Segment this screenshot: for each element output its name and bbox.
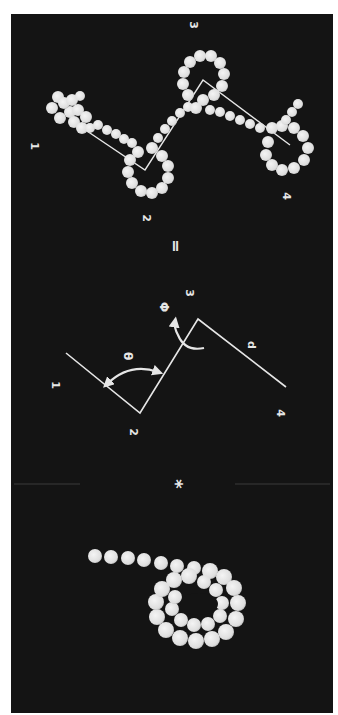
figure-panel: 1 2 3 4 = θ Φ d 1 2 3 4 * — [11, 14, 333, 713]
distance-label: d — [245, 341, 258, 349]
theta-label: θ — [121, 352, 135, 360]
bead-model-result: 1 2 3 4 — [28, 21, 314, 222]
bond-diagram: θ Φ d 1 2 3 4 — [49, 289, 287, 436]
bond-label-4: 4 — [274, 409, 287, 417]
bead-label-3: 3 — [187, 21, 200, 29]
bond-label-1: 1 — [49, 381, 62, 389]
bead-label-1: 1 — [28, 142, 41, 150]
convolution-operator: * — [166, 479, 187, 489]
bead-label-4: 4 — [280, 192, 293, 200]
bead-model-spiral — [88, 549, 246, 649]
phi-label: Φ — [157, 302, 171, 312]
equals-operator: = — [167, 239, 186, 252]
bond-label-3: 3 — [183, 289, 196, 297]
bond-label-2: 2 — [127, 428, 140, 436]
bead-label-2: 2 — [140, 214, 153, 222]
